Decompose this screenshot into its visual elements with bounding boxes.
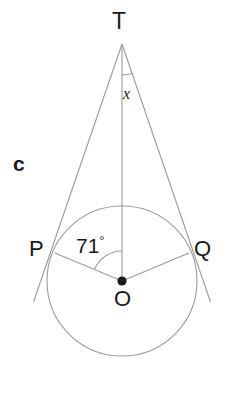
angle-arc-x: [122, 73, 133, 75]
label-angle-71: 71°: [76, 234, 105, 256]
radius-oq: [122, 253, 189, 281]
angle-value: 71: [76, 234, 99, 257]
label-point-q: Q: [194, 238, 211, 260]
label-point-o: O: [114, 288, 131, 310]
label-point-t: T: [112, 10, 126, 33]
geometry-canvas: [0, 0, 235, 395]
degree-symbol: °: [99, 233, 104, 248]
geometry-figure: T x c 71° P Q O: [0, 0, 235, 395]
label-angle-x: x: [123, 86, 130, 102]
tangent-line-left: [34, 44, 123, 302]
radius-op: [55, 253, 122, 281]
tangent-line-right: [122, 44, 211, 302]
centre-point-dot: [117, 276, 126, 285]
label-part-c: c: [13, 153, 25, 174]
label-point-p: P: [29, 238, 44, 260]
